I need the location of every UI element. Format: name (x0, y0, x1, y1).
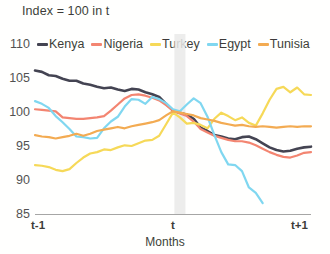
y-axis-tick-label: 105 (2, 72, 30, 85)
x-axis-tick-label: t (171, 220, 175, 232)
series-line-tunisia (35, 111, 311, 138)
y-axis-tick-label: 95 (2, 140, 30, 153)
event-band (174, 34, 185, 214)
y-axis-tick-label: 90 (2, 174, 30, 187)
series-line-turkey (35, 87, 311, 171)
chart-figure: Index = 100 in t KenyaNigeriaTurkeyEgypt… (0, 0, 330, 254)
y-axis-tick-label: 110 (2, 38, 30, 51)
y-axis-tick-label: 100 (2, 106, 30, 119)
series-group (35, 71, 311, 204)
plot-svg (0, 0, 330, 254)
series-line-egypt (35, 97, 263, 203)
x-axis-tick-label: t-1 (31, 220, 45, 232)
plot-area (0, 0, 330, 254)
y-axis-tick-label: 85 (2, 208, 30, 221)
x-axis-tick-label: t+1 (291, 220, 308, 232)
event-band-group (174, 34, 185, 214)
x-axis-title: Months (0, 235, 330, 249)
